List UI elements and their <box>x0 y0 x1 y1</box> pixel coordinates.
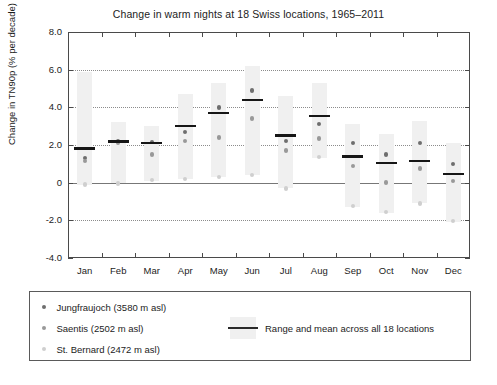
mean-bar <box>342 155 363 158</box>
x-tick-mark <box>336 32 337 37</box>
data-point <box>150 152 154 156</box>
x-tick-mark <box>169 253 170 258</box>
gridline <box>68 220 470 221</box>
y-tick-mark <box>465 145 470 146</box>
x-tick-mark <box>202 253 203 258</box>
y-tick-mark <box>68 183 73 184</box>
y-tick-mark <box>68 70 73 71</box>
x-tick-mark <box>202 32 203 37</box>
y-tick-mark <box>68 258 73 259</box>
mean-line-icon <box>228 327 258 329</box>
x-tick-mark <box>236 253 237 258</box>
zero-reference-line <box>68 183 470 184</box>
mean-bar <box>141 142 162 145</box>
data-point <box>250 88 254 92</box>
data-point <box>351 164 355 168</box>
y-tick-mark <box>465 258 470 259</box>
legend-range-label: Range and mean across all 18 locations <box>265 323 434 334</box>
y-tick-mark <box>68 107 73 108</box>
gridline <box>68 70 470 71</box>
x-tick-mark <box>269 253 270 258</box>
data-point <box>83 159 87 163</box>
legend-label: Jungfraujoch (3580 m asl) <box>56 302 166 313</box>
range-band-swatch-icon <box>230 317 256 339</box>
y-tick-label: -2.0 <box>32 214 62 225</box>
x-tick-mark <box>303 253 304 258</box>
data-point <box>418 201 422 205</box>
x-tick-mark <box>403 32 404 37</box>
x-tick-mark <box>403 253 404 258</box>
legend-range-entry: Range and mean across all 18 locations <box>230 320 434 336</box>
y-tick-mark <box>465 220 470 221</box>
data-point <box>418 166 422 170</box>
mean-bar <box>175 125 196 128</box>
mean-bar <box>74 147 95 150</box>
range-band <box>77 72 92 185</box>
x-tick-mark <box>269 32 270 37</box>
mean-bar <box>443 173 464 176</box>
y-tick-label: 8.0 <box>32 26 62 37</box>
data-point <box>150 178 154 182</box>
chart-title: Change in warm nights at 18 Swiss locati… <box>0 8 497 20</box>
y-tick-mark <box>465 183 470 184</box>
y-tick-mark <box>465 107 470 108</box>
y-tick-mark <box>465 32 470 33</box>
figure: Change in warm nights at 18 Swiss locati… <box>0 0 497 385</box>
gridline <box>68 145 470 146</box>
range-band <box>178 94 193 179</box>
x-tick-mark <box>102 253 103 258</box>
x-tick-mark <box>336 253 337 258</box>
data-point <box>217 135 221 139</box>
legend-marker-dot <box>42 326 46 330</box>
y-tick-mark <box>68 145 73 146</box>
x-tick-mark <box>437 32 438 37</box>
figure-caption <box>33 374 493 385</box>
mean-bar <box>242 99 263 102</box>
y-tick-label: 6.0 <box>32 64 62 75</box>
y-tick-label: 4.0 <box>32 101 62 112</box>
range-band <box>312 83 327 158</box>
legend: Jungfraujoch (3580 m asl) Saentis (2502 … <box>29 291 471 361</box>
range-band <box>111 122 126 182</box>
x-tick-mark <box>102 32 103 37</box>
x-tick-mark <box>437 253 438 258</box>
mean-bar <box>409 160 430 163</box>
legend-label: Saentis (2502 m asl) <box>56 323 143 334</box>
x-tick-mark <box>135 32 136 37</box>
mean-bar <box>108 140 129 143</box>
x-tick-mark <box>236 32 237 37</box>
y-tick-label: 0 <box>32 177 62 188</box>
data-point <box>217 105 221 109</box>
mean-bar <box>208 112 229 115</box>
data-point <box>83 182 87 186</box>
x-tick-mark <box>303 32 304 37</box>
mean-bar <box>275 134 296 137</box>
data-point <box>284 186 288 190</box>
gridline <box>68 107 470 108</box>
legend-label: St. Bernard (2472 m asl) <box>56 344 160 355</box>
legend-marker-dot <box>42 347 46 351</box>
legend-marker-dot <box>42 305 46 309</box>
x-tick-mark <box>169 32 170 37</box>
plot-area <box>68 32 470 258</box>
y-tick-label: -4.0 <box>32 252 62 263</box>
x-tick-label: Dec <box>433 265 473 276</box>
mean-bar <box>309 115 330 118</box>
x-tick-mark <box>135 253 136 258</box>
y-tick-label: 2.0 <box>32 139 62 150</box>
y-tick-mark <box>68 32 73 33</box>
x-tick-mark <box>370 253 371 258</box>
mean-bar <box>376 162 397 165</box>
y-tick-mark <box>465 70 470 71</box>
range-band <box>379 134 394 213</box>
y-tick-mark <box>68 220 73 221</box>
data-point <box>284 148 288 152</box>
range-band <box>211 83 226 177</box>
x-tick-mark <box>370 32 371 37</box>
